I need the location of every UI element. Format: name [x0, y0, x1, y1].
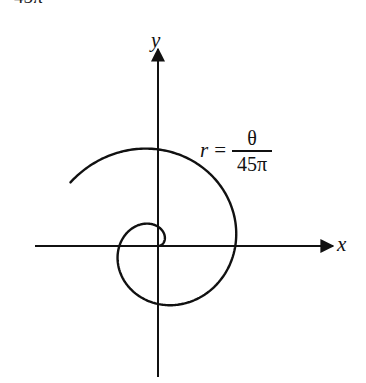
y-axis-label: y [151, 28, 160, 53]
equation-numerator: θ [245, 128, 259, 150]
equation-lhs: r [200, 138, 208, 163]
curve-equation: r = θ 45π [200, 128, 272, 174]
polar-spiral-figure [0, 0, 366, 383]
equation-equals: = [214, 138, 226, 163]
equation-fraction: θ 45π [232, 128, 272, 174]
equation-denominator: 45π [237, 152, 267, 174]
x-axis-label: x [337, 232, 346, 257]
